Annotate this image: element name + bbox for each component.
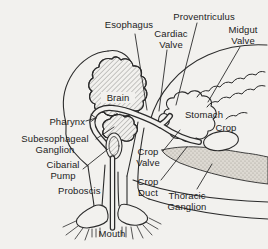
label-proboscis: Proboscis [58, 185, 106, 196]
label-brain: Brain [101, 92, 135, 103]
midgut-squiggle [226, 112, 247, 119]
label-text: Thoracic [163, 190, 211, 201]
label-cibarial-pump: Cibarial Pump [41, 159, 85, 181]
label-mouth: Mouth [93, 228, 131, 239]
labellum-left [76, 205, 108, 228]
label-subesophageal-ganglion: Subesophageal Ganglion [14, 133, 96, 155]
label-pharynx: Pharynx [45, 116, 85, 127]
figure-canvas: Esophagus Proventriculus Cardiac Valve M… [0, 0, 268, 249]
label-text: Pump [41, 170, 85, 181]
labellum-right [118, 204, 148, 225]
label-text: Midgut [221, 24, 265, 35]
label-text: Stomach [182, 109, 226, 120]
cibarial-pump-shape [106, 133, 122, 159]
label-text: Cibarial [41, 159, 85, 170]
thoracic-ganglion-shape [162, 147, 268, 184]
label-text: Cardiac [146, 28, 196, 39]
proboscis-right-inner-wall [118, 172, 119, 206]
label-midgut-valve: Midgut Valve [221, 24, 265, 46]
leader-cardiac-valve [159, 50, 167, 111]
label-text: Brain [101, 92, 135, 103]
label-text: Ganglion [14, 144, 96, 155]
label-text: Crop [131, 146, 165, 157]
label-crop-duct: Crop Duct [133, 176, 163, 198]
label-text: Duct [133, 187, 163, 198]
label-proventriculus: Proventriculus [165, 11, 243, 22]
label-text: Ganglion [163, 201, 211, 212]
label-text: Crop [212, 122, 240, 133]
label-text: Mouth [93, 228, 131, 239]
label-text: Pharynx [45, 116, 85, 127]
midgut-outline-upper [197, 71, 265, 97]
label-crop-valve: Crop Valve [131, 146, 165, 168]
label-text: Valve [131, 157, 165, 168]
label-thoracic-ganglion: Thoracic Ganglion [163, 190, 211, 212]
label-cardiac-valve: Cardiac Valve [146, 28, 196, 50]
label-stomach: Stomach [182, 109, 226, 120]
label-text: Subesophageal [14, 133, 96, 144]
label-crop: Crop [212, 122, 240, 133]
label-text: Proventriculus [165, 11, 243, 22]
label-text: Crop [133, 176, 163, 187]
label-text: Valve [146, 39, 196, 50]
label-text: Valve [221, 35, 265, 46]
label-text: Proboscis [58, 185, 106, 196]
